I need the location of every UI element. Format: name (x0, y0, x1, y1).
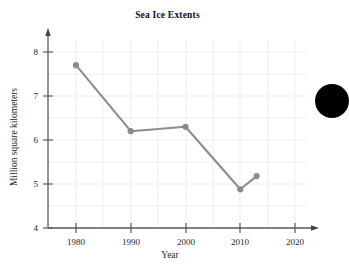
x-axis-tick-labels: 1980 1990 2000 2010 2020 (67, 237, 305, 247)
data-point (237, 186, 243, 192)
y-axis-title: Million square kilometers (9, 37, 23, 237)
x-tick-label: 1990 (122, 237, 141, 247)
data-point (73, 62, 79, 68)
data-series-markers (73, 62, 260, 192)
y-axis-tick-labels: 8 7 6 5 4 (34, 47, 39, 233)
edge-artifact-blob (315, 84, 349, 118)
y-tick-label: 7 (34, 91, 39, 101)
x-tick-label: 2020 (286, 237, 305, 247)
gridlines-vertical (76, 40, 295, 228)
y-tick-label: 8 (34, 47, 39, 57)
gridlines-horizontal (48, 52, 306, 206)
y-tick-label: 5 (34, 179, 39, 189)
x-tick-label: 2000 (177, 237, 196, 247)
x-tick-label: 2010 (231, 237, 250, 247)
y-axis (45, 28, 51, 228)
x-axis (48, 225, 319, 231)
x-tick-label: 1980 (67, 237, 86, 247)
x-axis-title: Year (110, 250, 230, 260)
data-point (254, 173, 260, 179)
data-point (128, 128, 134, 134)
y-tick-label: 4 (34, 223, 39, 233)
data-point (182, 124, 188, 130)
y-tick-label: 6 (34, 135, 39, 145)
